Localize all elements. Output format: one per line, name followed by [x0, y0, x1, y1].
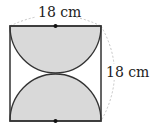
bottom-semicircle — [10, 74, 101, 121]
geometry-diagram: 18 cm 18 cm — [0, 0, 153, 132]
top-semicircle — [10, 26, 101, 73]
bottom-center-dot — [54, 119, 58, 123]
top-center-dot — [54, 24, 58, 28]
right-height-label: 18 cm — [106, 64, 149, 80]
top-width-label: 18 cm — [38, 4, 81, 20]
